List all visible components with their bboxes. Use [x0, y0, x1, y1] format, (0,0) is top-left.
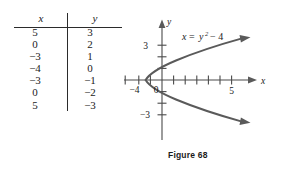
column-header-y: y: [68, 12, 122, 26]
cell-y: −3: [68, 99, 122, 111]
table-row: −3 1: [14, 50, 122, 62]
cell-x: 0: [14, 86, 68, 98]
equation-rest: − 4: [210, 31, 223, 42]
figure-68: x y 5 3 0 2 −3 1 −4 0: [0, 0, 284, 171]
cell-y: −1: [68, 74, 122, 86]
x-axis-arrowhead: [248, 77, 257, 84]
value-table: x y 5 3 0 2 −3 1 −4 0: [14, 12, 122, 111]
column-header-x: x: [14, 12, 68, 26]
table-body: 5 3 0 2 −3 1 −4 0 −3 −1: [14, 26, 122, 111]
table-row: 0 −2: [14, 86, 122, 98]
figure-caption: Figure 68: [168, 150, 208, 160]
equation-exponent: 2: [205, 30, 209, 37]
equation-label: x = y 2 − 4: [181, 30, 223, 43]
cell-y: 0: [68, 62, 122, 74]
x-tick-label-neg4: −4: [129, 85, 139, 95]
cell-y: −2: [68, 86, 122, 98]
equation-lhs: x: [181, 31, 187, 42]
y-tick-label-neg3: −3: [140, 110, 150, 120]
x-tick-label-5: 5: [229, 86, 234, 96]
cell-x: −3: [14, 74, 68, 86]
equation-equals: =: [189, 31, 195, 42]
curve-upper-arrowhead: [240, 35, 251, 42]
parabola-graph: x y 3 −3 0 5 −4 x = y 2 − 4: [124, 14, 284, 144]
table-row: 0 2: [14, 38, 122, 50]
cell-x: −3: [14, 50, 68, 62]
table-row: 5 −3: [14, 99, 122, 111]
curve-lower-arrowhead: [240, 118, 251, 125]
x-axis: [124, 76, 257, 85]
cell-x: 0: [14, 38, 68, 50]
table-column-divider: [67, 13, 68, 111]
graph-panel: x y 3 −3 0 5 −4 x = y 2 − 4: [124, 14, 284, 144]
table-row: −4 0: [14, 62, 122, 74]
table-row: −3 −1: [14, 74, 122, 86]
cell-y: 2: [68, 38, 122, 50]
cell-x: −4: [14, 62, 68, 74]
x-axis-label: x: [260, 76, 266, 86]
y-tick-label-3: 3: [143, 41, 148, 51]
table-header-row: x y: [14, 12, 122, 26]
y-axis-arrowhead: [159, 20, 166, 29]
y-axis-label: y: [166, 17, 172, 27]
origin-label: 0: [154, 85, 159, 95]
cell-x: 5: [14, 99, 68, 111]
cell-y: 1: [68, 50, 122, 62]
table-header-rule: [14, 27, 122, 28]
equation-base: y: [198, 31, 204, 42]
table-header: x y: [14, 12, 122, 26]
